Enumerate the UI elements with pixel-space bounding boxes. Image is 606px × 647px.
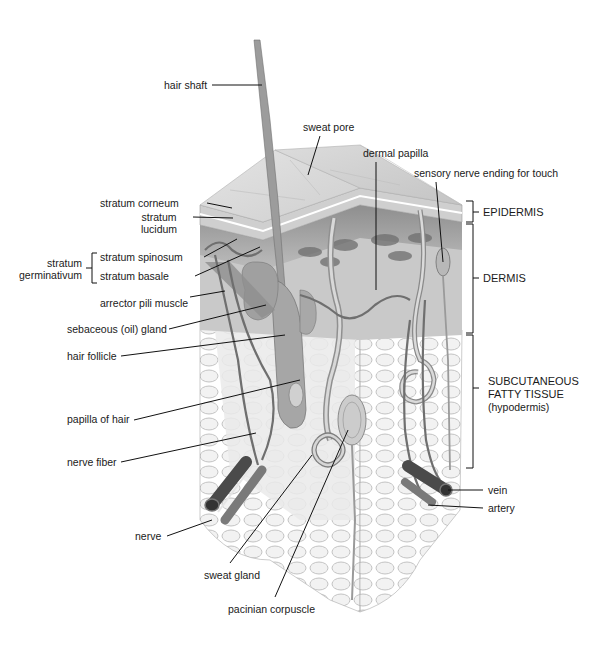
region-subcutaneous-line1: SUBCUTANEOUS (488, 375, 579, 388)
label-artery: artery (488, 502, 515, 514)
label-stratum-germinativum-line1: stratum (18, 257, 82, 269)
label-sebaceous-gland: sebaceous (oil) gland (67, 323, 167, 335)
label-nerve-fiber: nerve fiber (67, 456, 117, 468)
label-stratum-germinativum: stratum germinativum (18, 257, 82, 281)
region-subcutaneous-line3: (hypodermis) (488, 401, 579, 414)
label-stratum-germinativum-line2: germinativum (18, 269, 82, 281)
label-stratum-lucidum: stratum lucidum (128, 211, 190, 235)
label-vein: vein (488, 484, 507, 496)
label-hair-follicle: hair follicle (67, 350, 117, 362)
label-arrector-pili-muscle: arrector pili muscle (100, 297, 188, 309)
label-stratum-lucidum-line2: lucidum (128, 223, 190, 235)
label-stratum-corneum: stratum corneum (100, 197, 179, 209)
region-subcutaneous-line2: FATTY TISSUE (488, 388, 579, 401)
label-stratum-basale: stratum basale (100, 270, 169, 282)
label-sensory-nerve-ending: sensory nerve ending for touch (414, 167, 558, 179)
label-nerve: nerve (135, 530, 161, 542)
label-stratum-lucidum-line1: stratum (128, 211, 190, 223)
region-epidermis: EPIDERMIS (483, 206, 544, 219)
label-hair-shaft: hair shaft (164, 79, 207, 91)
label-stratum-spinosum: stratum spinosum (100, 251, 183, 263)
region-dermis: DERMIS (483, 272, 526, 285)
label-dermal-papilla: dermal papilla (363, 147, 428, 159)
label-papilla-of-hair: papilla of hair (67, 413, 129, 425)
label-pacinian-corpuscle: pacinian corpuscle (228, 603, 315, 615)
skin-diagram: hair shaft sweat pore dermal papilla sen… (0, 0, 606, 647)
label-sweat-pore: sweat pore (303, 121, 354, 133)
label-sweat-gland: sweat gland (204, 569, 260, 581)
region-subcutaneous: SUBCUTANEOUS FATTY TISSUE (hypodermis) (488, 375, 579, 414)
